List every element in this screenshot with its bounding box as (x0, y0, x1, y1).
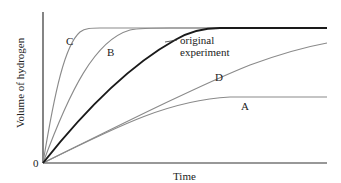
label-d: D (215, 71, 223, 83)
curve-a (43, 97, 327, 163)
x-axis-label: Time (173, 170, 196, 182)
label-a: A (241, 100, 249, 112)
origin-label: 0 (33, 157, 39, 169)
curve-d (43, 43, 327, 163)
y-axis-label: Volume of hydrogen (14, 37, 26, 128)
label-b: B (107, 46, 114, 58)
label-original-line2: experiment (180, 46, 229, 58)
label-c: C (66, 35, 73, 47)
chart: C B original experiment D A 0 Time Volum… (0, 0, 341, 183)
label-original-line1: original (180, 34, 214, 46)
